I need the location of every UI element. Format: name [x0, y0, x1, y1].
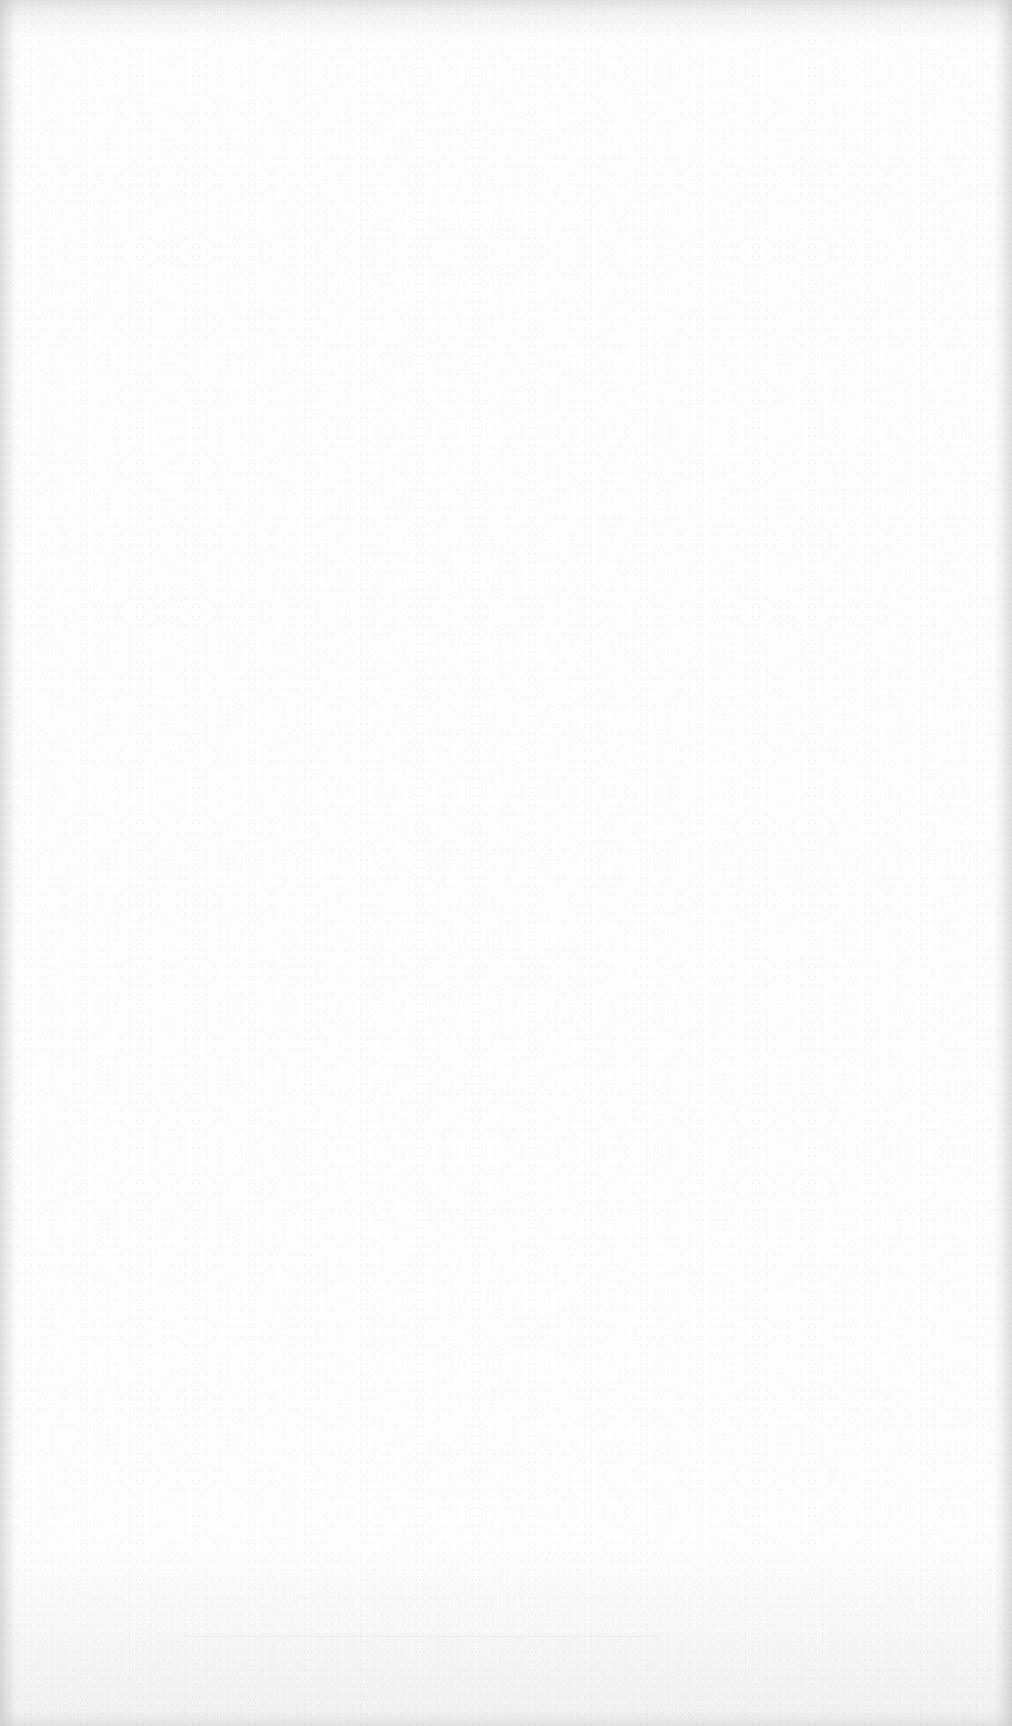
faint-scan-line: [180, 1636, 660, 1637]
top-edge-shadow: [0, 0, 1012, 40]
paper-grain-texture: [0, 0, 1012, 1726]
blank-document-page: [0, 0, 1012, 1726]
right-edge-shadow: [994, 0, 1012, 1726]
left-edge-shadow: [0, 0, 18, 1726]
